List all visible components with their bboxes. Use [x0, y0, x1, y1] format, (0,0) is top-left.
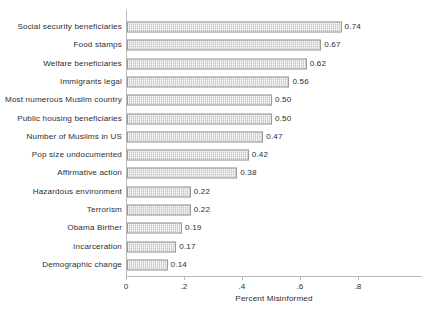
bar-value-label: 0.19 — [185, 223, 201, 233]
bar-row: Number of Muslims in US0.47 — [0, 128, 436, 146]
bar — [127, 150, 249, 161]
bar — [127, 95, 272, 106]
bar-row: Public housing beneficiaries0.50 — [0, 110, 436, 128]
category-label: Food stamps — [73, 40, 122, 50]
category-label: Welfare beneficiaries — [43, 59, 122, 69]
x-tick-label: .2 — [181, 282, 188, 292]
bar-value-label: 0.22 — [194, 187, 210, 197]
bar-row: Most numerous Muslim country0.50 — [0, 91, 436, 109]
category-label: Pop size undocumented — [32, 150, 122, 160]
bar — [127, 168, 237, 179]
bar-value-label: 0.62 — [310, 59, 326, 69]
bar-row: Immigrants legal0.56 — [0, 73, 436, 91]
plot-area: Social security beneficiaries0.74Food st… — [0, 0, 436, 312]
category-label: Incarceration — [73, 242, 122, 252]
bar — [127, 205, 191, 216]
bar-row: Food stamps0.67 — [0, 36, 436, 54]
x-tick-label: .8 — [355, 282, 362, 292]
bar-value-label: 0.50 — [275, 114, 291, 124]
x-axis-title: Percent Misinformed — [126, 294, 422, 304]
x-tick-mark — [300, 276, 301, 280]
category-label: Affirmative action — [57, 168, 122, 178]
category-label: Public housing beneficiaries — [17, 114, 122, 124]
bar — [127, 58, 307, 69]
category-label: Terrorism — [87, 205, 122, 215]
bar — [127, 76, 289, 87]
category-label: Social security beneficiaries — [17, 22, 122, 32]
category-label: Hazardous environment — [33, 187, 122, 197]
category-label: Number of Muslims in US — [27, 132, 122, 142]
bar-row: Terrorism0.22 — [0, 201, 436, 219]
bar-chart-figure: Social security beneficiaries0.74Food st… — [0, 0, 436, 312]
bar-row: Incarceration0.17 — [0, 238, 436, 256]
bar-value-label: 0.42 — [252, 150, 268, 160]
category-label: Demographic change — [42, 260, 122, 270]
x-tick-mark — [184, 276, 185, 280]
category-label: Most numerous Muslim country — [5, 95, 122, 105]
bar-value-label: 0.67 — [324, 40, 340, 50]
bar-row: Welfare beneficiaries0.62 — [0, 55, 436, 73]
x-tick-label: .4 — [239, 282, 246, 292]
bar-row: Pop size undocumented0.42 — [0, 146, 436, 164]
bar-row: Obama Birther0.19 — [0, 219, 436, 237]
bar-row: Hazardous environment0.22 — [0, 183, 436, 201]
bar-value-label: 0.17 — [179, 242, 195, 252]
x-axis-line — [126, 276, 422, 277]
bar — [127, 259, 168, 270]
bar — [127, 241, 176, 252]
bar-value-label: 0.22 — [194, 205, 210, 215]
bar-value-label: 0.50 — [275, 95, 291, 105]
bar-value-label: 0.47 — [266, 132, 282, 142]
bar — [127, 223, 182, 234]
x-tick-mark — [126, 276, 127, 280]
x-tick-mark — [358, 276, 359, 280]
bar-row: Affirmative action0.38 — [0, 164, 436, 182]
category-label: Immigrants legal — [60, 77, 122, 87]
bar — [127, 40, 321, 51]
bar — [127, 22, 342, 33]
bar-value-label: 0.14 — [171, 260, 187, 270]
x-tick-label: .6 — [297, 282, 304, 292]
bar — [127, 186, 191, 197]
bar-value-label: 0.56 — [292, 77, 308, 87]
bar-row: Demographic change0.14 — [0, 256, 436, 274]
bar-row: Social security beneficiaries0.74 — [0, 18, 436, 36]
bar — [127, 113, 272, 124]
category-label: Obama Birther — [67, 223, 122, 233]
x-tick-mark — [242, 276, 243, 280]
bar-value-label: 0.74 — [345, 22, 361, 32]
x-tick-label: 0 — [124, 282, 129, 292]
bar — [127, 131, 263, 142]
bar-value-label: 0.38 — [240, 168, 256, 178]
